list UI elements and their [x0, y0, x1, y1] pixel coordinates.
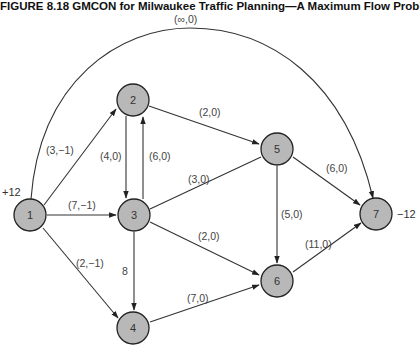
edge-label-4-6: (7,0) — [187, 292, 209, 304]
node-label: 2 — [130, 94, 136, 106]
node-label: 7 — [373, 208, 379, 220]
node-1: 1 — [14, 199, 46, 231]
node-2: 2 — [117, 84, 149, 116]
node-5: 5 — [261, 133, 293, 165]
supply-node-1: +12 — [2, 186, 21, 198]
node-4: 4 — [117, 312, 149, 344]
edge-label-6-7: (11,0) — [305, 238, 332, 250]
edge-1-4 — [43, 228, 118, 318]
node-7: 7 — [360, 198, 392, 230]
node-label: 4 — [130, 322, 136, 334]
demand-node-7: −12 — [397, 208, 416, 220]
edge-label-1-7: (∞,0) — [174, 13, 197, 25]
node-label: 1 — [27, 209, 33, 221]
edge-label-1-4: (2,−1) — [76, 257, 104, 269]
edge-label-1-2: (3,−1) — [46, 144, 74, 156]
node-label: 5 — [274, 143, 280, 155]
edge-label-3-5: (3,0) — [188, 173, 210, 185]
network-diagram: (∞,0) (3,−1) (7,−1) (2,−1) (4,0) (6,0) (… — [0, 0, 420, 347]
edge-label-5-6: (5,0) — [281, 208, 303, 220]
node-3: 3 — [118, 199, 150, 231]
edge-label-3-6: (2,0) — [198, 230, 220, 242]
edge-label-5-7: (6,0) — [326, 162, 348, 174]
node-label: 6 — [274, 275, 280, 287]
edge-label-2-3: (4,0) — [100, 150, 122, 162]
node-label: 3 — [131, 209, 137, 221]
edge-label-3-2: (6,0) — [149, 150, 171, 162]
edge-label-2-5: (2,0) — [199, 106, 221, 118]
node-6: 6 — [261, 265, 293, 297]
edge-label-1-3: (7,−1) — [68, 199, 96, 211]
edge-label-3-4: 8 — [122, 265, 128, 277]
